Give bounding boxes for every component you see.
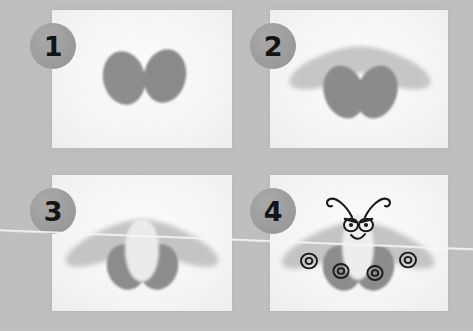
step-badge-2-label: 2 [264,33,282,60]
panel-2-paper [270,10,448,148]
panel-2-artwork [270,10,448,148]
step-panel-3 [52,175,232,311]
step-badge-3-label: 3 [44,198,62,225]
step-badge-1: 1 [30,23,76,69]
step-badge-1-label: 1 [44,33,62,60]
tutorial-canvas: 1 [0,0,473,331]
panel-4-paper [270,175,448,311]
step-panel-4 [270,175,448,311]
panel-1-artwork [52,10,232,148]
panel-4-artwork [270,175,448,311]
left-hindwing-print [98,47,150,109]
body-print [125,218,159,282]
right-antenna-icon [365,199,390,217]
step-badge-2: 2 [250,23,296,69]
right-hindwing-print [139,45,191,107]
left-antenna-icon [327,199,352,217]
right-pupil-icon [364,223,368,227]
step-badge-3: 3 [30,188,76,234]
panel-3-paper [52,175,232,311]
left-pupil-icon [349,223,353,227]
panel-1-paper [52,10,232,148]
panel-3-artwork [52,175,232,311]
step-panel-2 [270,10,448,148]
step-badge-4: 4 [250,188,296,234]
step-badge-4-label: 4 [264,198,282,225]
step-panel-1 [52,10,232,148]
